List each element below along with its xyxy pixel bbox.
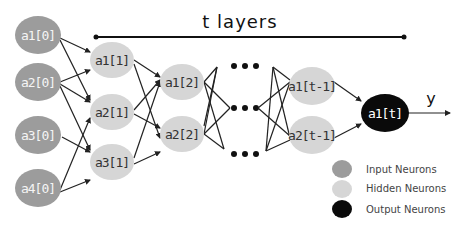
span-start-dot (94, 35, 99, 40)
legend-output-swatch (332, 200, 352, 218)
legend-output-label: Output Neurons (366, 204, 445, 215)
legend-hidden-label: Hidden Neurons (366, 183, 446, 194)
edges-hidden1-to-hidden2 (134, 60, 160, 164)
edges-hidden2-to-ellipsis (204, 67, 230, 149)
hidden-layer-1: a1[1] a2[1] a3[1] (90, 42, 134, 180)
node-a1-2-label: a1[2] (165, 75, 199, 90)
node-a2-0-label: a2[0] (21, 75, 55, 90)
node-a3-0-label: a3[0] (21, 128, 55, 143)
output-y-label: y (426, 89, 435, 108)
output-arrow: y (408, 89, 450, 113)
edges-ellipsis-to-hidden-t-1 (258, 67, 290, 151)
t-layers-span: t layers (94, 11, 407, 40)
node-a2-2-label: a2[2] (165, 127, 199, 142)
node-a1-t-label: a1[t] (368, 106, 402, 121)
legend-input-swatch (332, 160, 352, 178)
legend-hidden-swatch (332, 180, 352, 198)
output-layer: a1[t] (361, 94, 409, 132)
node-a1-1-label: a1[1] (95, 53, 129, 68)
legend: Input Neurons Hidden Neurons Output Neur… (332, 160, 446, 218)
neural-network-diagram: t layers (0, 0, 461, 231)
hidden-layer-2: a1[2] a2[2] (160, 64, 204, 152)
node-a1-t-1-label: a1[t-1] (288, 79, 336, 94)
ellipsis-dots (231, 63, 259, 157)
edges-to-output (334, 82, 361, 138)
node-a2-t-1-label: a2[t-1] (288, 128, 336, 143)
hidden-layer-t-1: a1[t-1] a2[t-1] (288, 67, 336, 154)
title-t-layers: t layers (202, 11, 277, 32)
node-a1-0-label: a1[0] (21, 28, 55, 43)
input-layer: a1[0] a2[0] a3[0] a4[0] (15, 16, 61, 207)
node-a4-0-label: a4[0] (21, 181, 55, 196)
edges-input-to-hidden1 (60, 38, 90, 192)
node-a3-1-label: a3[1] (95, 155, 129, 170)
span-end-dot (402, 35, 407, 40)
legend-input-label: Input Neurons (366, 164, 437, 175)
node-a2-1-label: a2[1] (95, 105, 129, 120)
